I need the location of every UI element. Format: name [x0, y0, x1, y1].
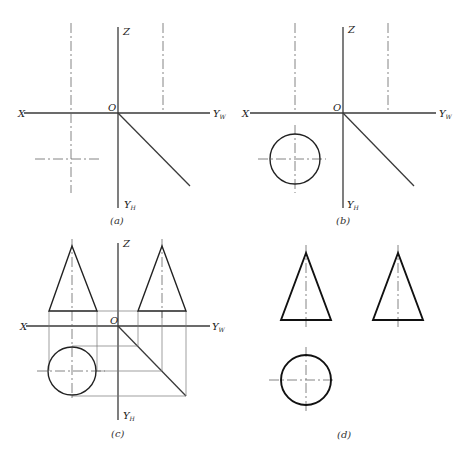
x-label: X: [19, 321, 28, 332]
diagonal-45-line: [118, 326, 186, 396]
yh-label: YH: [347, 199, 360, 211]
yh-label: YH: [123, 410, 136, 422]
x-label: X: [241, 108, 250, 119]
panel-c: X Z O YW YH (c): [19, 238, 226, 439]
z-label: Z: [122, 26, 131, 37]
panel-caption: (d): [337, 429, 351, 440]
origin-label: O: [333, 102, 341, 113]
z-label: Z: [347, 24, 356, 35]
origin-label: O: [108, 102, 116, 113]
cone-three-view-diagram: X Z O YW YH (a) X Z O YW YH (b): [0, 0, 468, 454]
origin-label: O: [110, 315, 118, 326]
front-view-triangle: [49, 246, 97, 311]
diagonal-45-line: [118, 113, 190, 186]
panel-caption: (c): [111, 428, 125, 439]
panel-b: X Z O YW YH (b): [241, 23, 453, 226]
panel-caption: (a): [110, 215, 124, 226]
yw-label: YW: [439, 108, 453, 120]
panel-d: (d): [269, 245, 423, 440]
yh-label: YH: [124, 199, 137, 211]
diagonal-45-line: [343, 113, 414, 186]
yw-label: YW: [213, 108, 227, 120]
panel-a: X Z O YW YH (a): [17, 23, 227, 226]
yw-label: YW: [212, 321, 226, 333]
x-label: X: [17, 108, 26, 119]
z-label: Z: [122, 238, 131, 249]
panel-caption: (b): [336, 215, 350, 226]
